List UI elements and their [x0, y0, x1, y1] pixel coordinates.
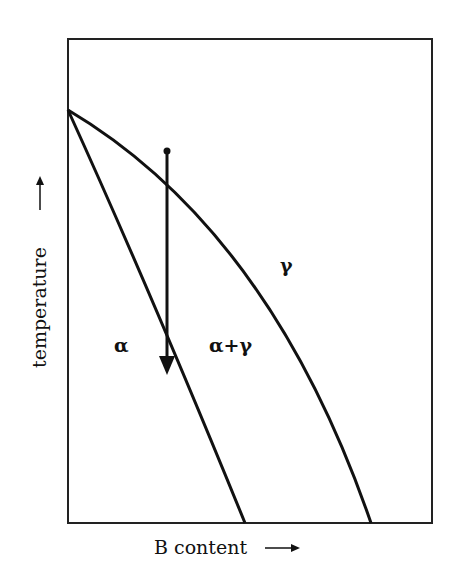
down-arrowhead-icon — [159, 356, 175, 375]
x-axis-label: B content — [154, 536, 247, 558]
phase-label-alpha-gamma: α+γ — [209, 334, 253, 356]
right-arrow-icon — [291, 544, 300, 552]
phase-diagram: α α+γ γ B content temperature — [0, 0, 457, 579]
y-axis-label: temperature — [28, 247, 50, 368]
phase-label-gamma: γ — [280, 254, 293, 276]
up-arrow-icon — [36, 176, 44, 185]
alpha-boundary-curve — [68, 110, 245, 523]
phase-label-alpha: α — [114, 334, 129, 356]
